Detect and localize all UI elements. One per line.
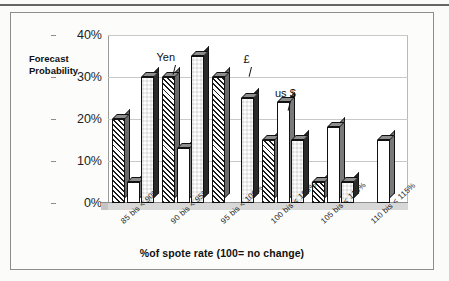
y-axis-tick-label: 20% xyxy=(56,112,102,126)
y-axis-title-line1: Forecast xyxy=(29,53,107,65)
bar-front-face xyxy=(377,140,390,203)
bar-us-5 xyxy=(377,140,390,203)
bar-side-face xyxy=(225,67,230,198)
chart-page: Forecast Probability 0%10%20%30%40% 85 b… xyxy=(0,0,449,281)
bar-group xyxy=(358,35,408,203)
bar-group xyxy=(208,35,258,203)
bar-front-face xyxy=(112,119,125,203)
bar-group xyxy=(308,35,358,203)
bar-groups xyxy=(108,35,408,203)
y-axis-tick-label: 10% xyxy=(56,154,102,168)
figure-frame: Forecast Probability 0%10%20%30%40% 85 b… xyxy=(10,12,434,270)
page-top-rule xyxy=(0,4,449,6)
bar-front-face xyxy=(191,56,204,203)
bar-front-face xyxy=(327,127,340,203)
y-axis-tick-label: 40% xyxy=(56,28,102,42)
y-axis-tick-mark xyxy=(51,77,56,78)
bar-front-face xyxy=(177,148,190,203)
bar-front-face xyxy=(262,140,275,203)
bar-yen-2 xyxy=(212,77,225,203)
annotation-label: £ xyxy=(244,53,250,65)
bar-yen-1 xyxy=(162,77,175,203)
plot-area: 0%10%20%30%40% 85 bis < 90%90 bis < 95%9… xyxy=(108,35,408,203)
annotation-label: Yen xyxy=(157,51,176,63)
bar-side-face xyxy=(390,130,395,198)
plot-floor-front xyxy=(108,203,408,210)
bar-us-3 xyxy=(277,102,290,203)
bar-front-face xyxy=(212,77,225,203)
bar-front-face xyxy=(141,77,154,203)
x-axis-title: %of spote rate (100= no change) xyxy=(11,247,433,259)
annotation-label: us $ xyxy=(275,87,296,99)
y-axis-tick-mark xyxy=(51,203,56,204)
bar--1 xyxy=(191,56,204,203)
bar-group xyxy=(108,35,158,203)
y-axis-tick-mark xyxy=(51,119,56,120)
y-axis-tick-mark xyxy=(51,161,56,162)
y-axis-tick-label: 30% xyxy=(56,70,102,84)
bar--0 xyxy=(141,77,154,203)
bar-yen-3 xyxy=(262,140,275,203)
bar-us-0 xyxy=(127,182,140,203)
bar-us-4 xyxy=(327,127,340,203)
bar-front-face xyxy=(127,182,140,203)
bar-us-1 xyxy=(177,148,190,203)
bar-front-face xyxy=(241,98,254,203)
bar--2 xyxy=(241,98,254,203)
bar-front-face xyxy=(277,102,290,203)
y-axis-tick-mark xyxy=(51,35,56,36)
y-axis-tick-label: 0% xyxy=(56,196,102,210)
bar-group xyxy=(258,35,308,203)
bar-front-face xyxy=(162,77,175,203)
bar-yen-0 xyxy=(112,119,125,203)
